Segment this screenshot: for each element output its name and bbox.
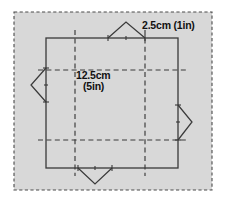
side-measurement-line2: (5in): [76, 81, 110, 92]
panel-background: [14, 12, 212, 190]
side-measurement-label: 12.5cm (5in): [76, 70, 110, 92]
edge-measurement-label: 2.5cm (1in): [142, 20, 195, 31]
figure-root: 2.5cm (1in) 12.5cm (5in): [0, 0, 225, 205]
